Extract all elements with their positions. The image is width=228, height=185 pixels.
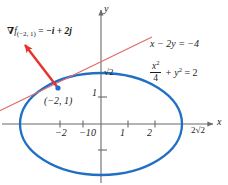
x-tick-label-zero: 0 (91, 128, 96, 138)
gradient-subscript-point: (−2, 1) (17, 30, 36, 38)
tangency-point-label: (−2, 1) (44, 96, 72, 106)
ellipse-equation-rest: + y2 = 2 (162, 68, 197, 78)
ellipse-equation-fraction: x2 4 (150, 62, 161, 83)
x-intercept-2sqrt2-label: 2√2 (191, 126, 205, 135)
tangency-point-dot (55, 85, 60, 90)
y-tick-label-1: 1 (92, 88, 97, 98)
gradient-equals-sign: = (38, 26, 43, 36)
fraction-numerator: x2 (150, 62, 161, 72)
ellipse-equation-label: x2 4 + y2 = 2 (149, 62, 198, 83)
x-tick-label-neg1: −1 (79, 128, 91, 138)
x-axis-label: x (217, 117, 221, 127)
fraction-denominator: 4 (151, 73, 160, 83)
gradient-vector-arrow (25, 45, 58, 88)
tangent-line (0, 37, 152, 112)
x-tick-label-pos1: 1 (120, 128, 125, 138)
y-axis-label: y (104, 4, 108, 14)
x-tick-label-pos2: 2 (147, 128, 152, 138)
math-figure: ∇f(−2, 1) = −i + 2j x − 2y = −4 x2 4 + y… (0, 0, 228, 185)
gradient-annotation-label: ∇f(−2, 1) = −i + 2j (7, 26, 72, 38)
gradient-vector-components: −i + 2j (46, 26, 72, 36)
tangent-line-equation-label: x − 2y = −4 (150, 39, 199, 49)
x-tick-label-neg2: −2 (55, 128, 67, 138)
y-intercept-sqrt2-label: √2 (104, 68, 113, 77)
